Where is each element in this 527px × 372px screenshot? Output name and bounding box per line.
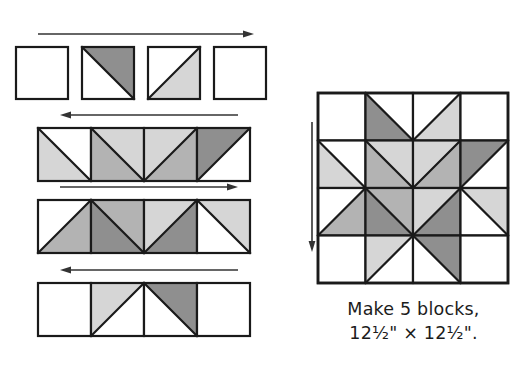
finished-block bbox=[309, 93, 508, 283]
unit-row-1 bbox=[16, 31, 266, 99]
unit-row-3 bbox=[38, 184, 250, 253]
block-arrow-down-icon-head bbox=[309, 241, 316, 252]
block-cell-r1c1-plain bbox=[318, 93, 366, 141]
unit-row-4 bbox=[38, 267, 250, 336]
row1-unit1-plain bbox=[16, 47, 68, 99]
row2-arrow-left-icon-head bbox=[60, 112, 71, 119]
row1-arrow-right-icon-head bbox=[243, 31, 254, 38]
block-cell-r1c4-plain bbox=[461, 93, 509, 141]
row4-unit1-plain bbox=[38, 283, 91, 336]
unit-row-2 bbox=[38, 112, 250, 181]
row4-unit4-plain bbox=[197, 283, 250, 336]
row3-arrow-right-icon-head bbox=[227, 184, 238, 191]
row4-arrow-left-icon-head bbox=[60, 267, 71, 274]
caption-line-2: 12½" × 12½". bbox=[306, 322, 521, 346]
caption-line-1: Make 5 blocks, bbox=[306, 298, 521, 322]
caption-block: Make 5 blocks, 12½" × 12½". bbox=[306, 298, 521, 345]
row1-unit4-plain bbox=[214, 47, 266, 99]
block-cell-r4c1-plain bbox=[318, 236, 366, 284]
block-cell-r4c4-plain bbox=[461, 236, 509, 284]
